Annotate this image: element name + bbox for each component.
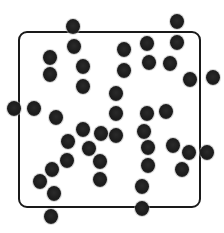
particle — [135, 201, 149, 216]
particle — [94, 126, 108, 141]
particle — [109, 86, 123, 101]
particle — [200, 145, 214, 160]
particle — [43, 50, 57, 65]
particle — [33, 174, 47, 189]
particle — [117, 42, 131, 57]
particle — [166, 138, 180, 153]
particle — [109, 128, 123, 143]
particle — [44, 209, 58, 224]
diagram-canvas — [0, 0, 224, 233]
particle — [66, 19, 80, 34]
particle — [61, 134, 75, 149]
particle — [182, 145, 196, 160]
particle — [117, 63, 131, 78]
particle — [49, 110, 63, 125]
particle — [76, 59, 90, 74]
particle — [142, 55, 156, 70]
particle — [206, 70, 220, 85]
particle — [109, 106, 123, 121]
particle — [183, 72, 197, 87]
particle — [76, 122, 90, 137]
particle — [163, 56, 177, 71]
particle — [140, 36, 154, 51]
particle — [93, 172, 107, 187]
particle — [175, 162, 189, 177]
particle — [141, 140, 155, 155]
particle — [76, 79, 90, 94]
particle — [47, 186, 61, 201]
particle — [27, 101, 41, 116]
particle — [43, 67, 57, 82]
particle — [141, 158, 155, 173]
particle — [45, 162, 59, 177]
particle — [82, 141, 96, 156]
particle — [135, 179, 149, 194]
particle — [170, 35, 184, 50]
particle — [93, 154, 107, 169]
particle — [67, 39, 81, 54]
particle — [140, 106, 154, 121]
particle — [170, 14, 184, 29]
particle — [7, 101, 21, 116]
particle — [159, 104, 173, 119]
particle — [137, 124, 151, 139]
particle — [60, 153, 74, 168]
